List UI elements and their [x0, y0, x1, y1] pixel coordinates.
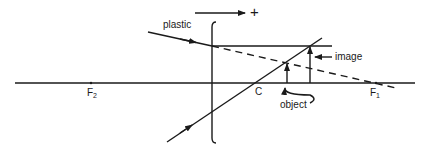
focal-point-f1	[375, 82, 377, 84]
plus-sign: +	[250, 4, 259, 19]
focal-point-f2	[90, 82, 92, 84]
center-label: C	[255, 87, 262, 97]
focal-label-f2: F2	[87, 88, 97, 99]
focal-label-f1: F1	[370, 88, 380, 99]
ray-diagram: plastic + image object C F2 F1	[0, 0, 428, 158]
dashed-extension	[212, 46, 396, 88]
plastic-label: plastic	[163, 20, 191, 30]
ray-lower-arrow	[180, 125, 192, 133]
focal-f2-subscript: 2	[93, 92, 97, 99]
focal-f1-subscript: 1	[376, 92, 380, 99]
object-label: object	[280, 100, 307, 110]
diagram-canvas	[0, 0, 428, 158]
image-label: image	[335, 52, 362, 62]
ray-upper-arrow	[180, 39, 196, 43]
